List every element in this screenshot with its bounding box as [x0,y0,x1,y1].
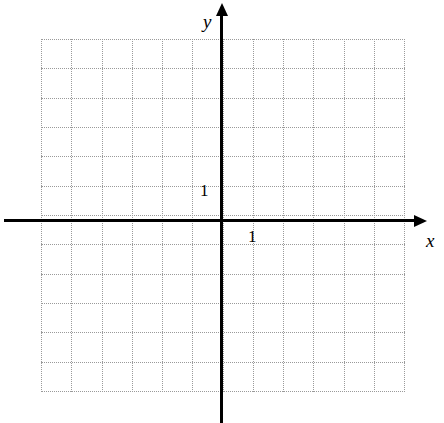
gridline-horizontal [41,244,405,245]
gridline-vertical [283,39,284,392]
gridline-horizontal [41,98,405,99]
gridline-vertical [374,39,375,392]
x-axis-line [4,219,414,222]
gridline-vertical [162,39,163,392]
y-axis-label: y [203,12,211,31]
gridline-vertical [404,39,405,392]
gridline-horizontal [41,186,405,187]
coordinate-grid-figure: x y 1 1 [0,0,444,423]
gridline-vertical [192,39,193,392]
gridline-horizontal [41,127,405,128]
gridline-horizontal [41,332,405,333]
x-axis-tick-label-1: 1 [248,228,257,245]
gridline-horizontal [41,391,405,392]
gridline-vertical [102,39,103,392]
gridline-horizontal [41,303,405,304]
gridline-horizontal [41,68,405,69]
gridline-vertical [71,39,72,392]
gridline-horizontal [41,362,405,363]
gridline-horizontal [41,274,405,275]
x-axis-label: x [426,231,434,250]
gridline-vertical [344,39,345,392]
y-axis-line [220,16,223,423]
gridline-horizontal [41,215,405,216]
gridline-vertical [223,39,224,392]
x-axis-arrowhead [414,215,427,227]
y-axis-arrowhead [216,3,228,16]
y-axis-tick-label-1: 1 [200,182,209,199]
gridline-horizontal [41,156,405,157]
gridline-vertical [253,39,254,392]
gridline-vertical [41,39,42,392]
gridline-horizontal [41,39,405,40]
gridline-vertical [132,39,133,392]
gridline-vertical [313,39,314,392]
